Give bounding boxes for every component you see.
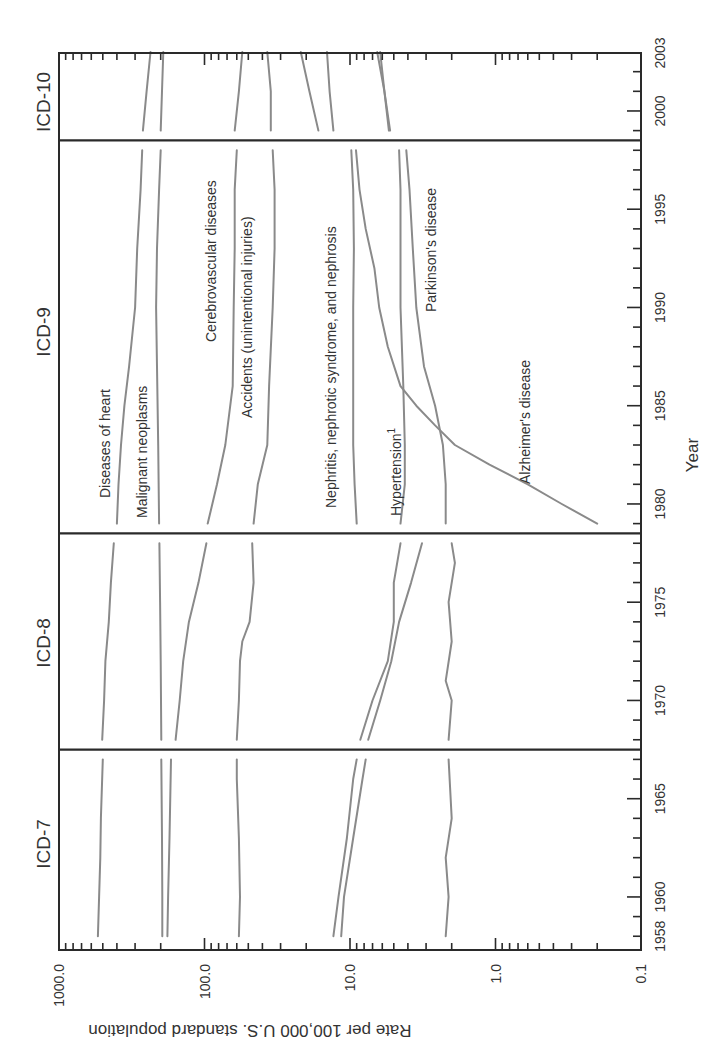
label-cerebrovascular-diseases: Cerebrovascular diseases xyxy=(203,180,219,342)
series-line-1 xyxy=(161,52,164,131)
year-axis-title: Year xyxy=(683,437,702,472)
series-line-3 xyxy=(254,150,275,523)
hypertension-footnote: 1 xyxy=(386,428,397,434)
year-tick-label: 1958 xyxy=(652,920,668,951)
series-line-0 xyxy=(102,543,114,740)
series-line-2 xyxy=(167,759,171,936)
label-alzheimers-disease: Alzheimer's disease xyxy=(517,360,533,484)
year-tick-label: 1965 xyxy=(652,783,668,814)
series-line-7 xyxy=(301,52,319,131)
series-line-4 xyxy=(333,759,356,936)
series-line-6 xyxy=(446,759,452,936)
hypertension-text: Hypertension xyxy=(388,434,404,517)
year-tick-label: 1990 xyxy=(652,292,668,323)
series-line-0 xyxy=(98,759,103,936)
rate-tick-label: 100.0 xyxy=(197,964,213,999)
series-line-0 xyxy=(143,52,151,131)
era-label-icd8: ICD-8 xyxy=(33,618,54,668)
label-diseases-of-heart: Diseases of heart xyxy=(97,389,113,498)
series-lines xyxy=(98,52,597,936)
label-parkinsons-disease: Parkinson's disease xyxy=(423,188,439,312)
series-line-1 xyxy=(159,543,161,740)
year-tick-label: 1995 xyxy=(652,193,668,224)
year-tick-label: 1970 xyxy=(652,685,668,716)
series-line-1 xyxy=(161,759,162,936)
series-line-3 xyxy=(237,759,240,936)
year-tick-label: 1975 xyxy=(652,586,668,617)
era-label-icd10: ICD-10 xyxy=(33,72,54,132)
year-tick-label: 2003 xyxy=(652,37,668,68)
series-line-4 xyxy=(327,52,333,131)
year-axis-ticks: 1958196019651970197519801985199019952000… xyxy=(627,37,668,952)
label-malignant-neoplasms: Malignant neoplasms xyxy=(134,386,150,518)
label-nephritis: Nephritis, nephrotic syndrome, and nephr… xyxy=(323,226,339,508)
year-tick-label: 1985 xyxy=(652,390,668,421)
label-accidents: Accidents (unintentional injuries) xyxy=(239,216,255,418)
series-line-2 xyxy=(235,52,243,131)
rate-tick-label: 1.0 xyxy=(488,964,504,984)
era-label-icd7: ICD-7 xyxy=(33,819,54,869)
series-line-3 xyxy=(237,543,254,740)
label-hypertension: Hypertension1 xyxy=(386,428,404,517)
mortality-rate-chart: 1000.0100.010.01.00.1 195819601965197019… xyxy=(0,0,724,1060)
rate-tick-label: 1000.0 xyxy=(51,964,67,1007)
era-label-icd9: ICD-9 xyxy=(33,307,54,357)
series-line-6 xyxy=(377,52,389,131)
series-line-6 xyxy=(446,543,455,740)
rate-tick-label: 10.0 xyxy=(342,964,358,991)
series-line-3 xyxy=(267,52,271,131)
year-tick-label: 1960 xyxy=(652,881,668,912)
series-line-4 xyxy=(351,150,356,523)
series-line-2 xyxy=(176,543,207,740)
rate-tick-label: 0.1 xyxy=(633,964,649,984)
rate-axis-title: Rate per 100,000 U.S. standard populatio… xyxy=(88,1021,411,1040)
year-tick-label: 2000 xyxy=(652,95,668,126)
year-tick-label: 1980 xyxy=(652,488,668,519)
series-line-1 xyxy=(156,150,161,523)
